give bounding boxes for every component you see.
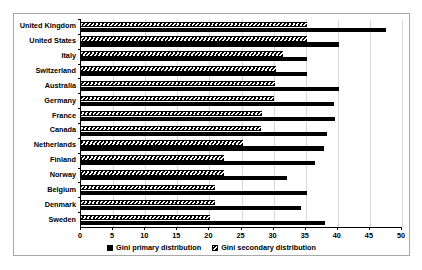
category-label: Belgium bbox=[0, 186, 81, 194]
legend-swatch-secondary-icon bbox=[212, 245, 218, 251]
bar-primary bbox=[81, 161, 315, 165]
legend-swatch-primary-icon bbox=[107, 245, 113, 251]
x-axis-tick bbox=[305, 227, 306, 230]
bar-secondary bbox=[81, 200, 215, 205]
y-axis-tick bbox=[78, 182, 81, 183]
x-axis-tick bbox=[401, 227, 402, 230]
x-axis-tick bbox=[241, 227, 242, 230]
bar-primary bbox=[81, 57, 307, 61]
x-axis-tick bbox=[208, 227, 209, 230]
x-axis-label: 5 bbox=[110, 231, 114, 240]
gridline bbox=[402, 19, 403, 227]
plot-area: United KingdomUnited StatesItalySwitzerl… bbox=[80, 19, 402, 228]
x-axis-label: 15 bbox=[172, 231, 180, 240]
category-label: Netherlands bbox=[0, 141, 81, 149]
bar-primary bbox=[81, 191, 307, 195]
chart-legend: Gini primary distribution Gini secondary… bbox=[14, 243, 409, 252]
y-axis-tick bbox=[78, 19, 81, 20]
bar-secondary bbox=[81, 155, 224, 160]
x-axis-tick bbox=[176, 227, 177, 230]
bar-row: Belgium bbox=[81, 182, 402, 197]
category-label: Switzerland bbox=[0, 67, 81, 75]
x-axis-label: 30 bbox=[269, 231, 277, 240]
x-axis-label: 35 bbox=[301, 231, 309, 240]
bar-primary bbox=[81, 146, 324, 150]
bar-row: United States bbox=[81, 34, 402, 49]
y-axis-tick bbox=[78, 64, 81, 65]
y-axis-tick bbox=[78, 123, 81, 124]
y-axis-tick bbox=[78, 34, 81, 35]
bar-primary bbox=[81, 176, 287, 180]
bar-row: Germany bbox=[81, 93, 402, 108]
y-axis-tick bbox=[78, 168, 81, 169]
bar-row: Finland bbox=[81, 153, 402, 168]
x-axis-tick bbox=[337, 227, 338, 230]
bar-secondary bbox=[81, 215, 210, 220]
bar-primary bbox=[81, 102, 334, 106]
x-axis-label: 10 bbox=[140, 231, 148, 240]
bar-primary bbox=[81, 87, 339, 91]
x-axis-tick bbox=[273, 227, 274, 230]
legend-label-primary: Gini primary distribution bbox=[116, 243, 201, 252]
x-axis-label: 0 bbox=[78, 231, 82, 240]
x-axis-tick bbox=[369, 227, 370, 230]
bar-secondary bbox=[81, 51, 283, 56]
bar-row: Australia bbox=[81, 78, 402, 93]
x-axis-label: 40 bbox=[333, 231, 341, 240]
bar-row: Switzerland bbox=[81, 64, 402, 79]
bar-secondary bbox=[81, 81, 275, 86]
bar-secondary bbox=[81, 111, 262, 116]
bar-secondary bbox=[81, 22, 307, 27]
y-axis-tick bbox=[78, 212, 81, 213]
legend-label-secondary: Gini secondary distribution bbox=[221, 243, 316, 252]
category-label: Denmark bbox=[0, 201, 81, 209]
bar-secondary bbox=[81, 140, 243, 145]
bar-secondary bbox=[81, 36, 307, 41]
bar-row: Norway bbox=[81, 168, 402, 183]
category-label: France bbox=[0, 112, 81, 120]
y-axis-tick bbox=[78, 78, 81, 79]
bar-row: Italy bbox=[81, 49, 402, 64]
y-axis-tick bbox=[78, 108, 81, 109]
bar-secondary bbox=[81, 185, 215, 190]
category-label: Norway bbox=[0, 171, 81, 179]
bar-row: Canada bbox=[81, 123, 402, 138]
category-label: Italy bbox=[0, 52, 81, 60]
bar-primary bbox=[81, 28, 386, 32]
bar-primary bbox=[81, 42, 339, 46]
bar-row: Sweden bbox=[81, 212, 402, 227]
category-label: Canada bbox=[0, 126, 81, 134]
bar-primary bbox=[81, 206, 301, 210]
bar-primary bbox=[81, 221, 325, 225]
category-label: Sweden bbox=[0, 216, 81, 224]
x-axis-tick bbox=[112, 227, 113, 230]
bar-primary bbox=[81, 72, 307, 76]
x-axis-label: 50 bbox=[397, 231, 405, 240]
x-axis-label: 20 bbox=[204, 231, 212, 240]
bar-row: United Kingdom bbox=[81, 19, 402, 34]
x-axis-label: 45 bbox=[365, 231, 373, 240]
bar-primary bbox=[81, 132, 327, 136]
x-axis: 05101520253035404550 bbox=[80, 227, 401, 243]
x-axis-label: 25 bbox=[236, 231, 244, 240]
legend-item-secondary: Gini secondary distribution bbox=[212, 243, 316, 252]
y-axis-tick bbox=[78, 49, 81, 50]
bar-secondary bbox=[81, 66, 276, 71]
y-axis-tick bbox=[78, 197, 81, 198]
category-label: Finland bbox=[0, 156, 81, 164]
category-label: Germany bbox=[0, 97, 81, 105]
category-label: Australia bbox=[0, 82, 81, 90]
plot-inner: United KingdomUnited StatesItalySwitzerl… bbox=[81, 19, 402, 227]
bar-row: Netherlands bbox=[81, 138, 402, 153]
chart-container: United KingdomUnited StatesItalySwitzerl… bbox=[13, 13, 410, 256]
bar-row: Denmark bbox=[81, 197, 402, 212]
y-axis-tick bbox=[78, 93, 81, 94]
y-axis-tick bbox=[78, 138, 81, 139]
x-axis-tick bbox=[144, 227, 145, 230]
x-axis-tick bbox=[80, 227, 81, 230]
bar-primary bbox=[81, 117, 335, 121]
bar-secondary bbox=[81, 96, 274, 101]
y-axis-tick bbox=[78, 153, 81, 154]
category-label: United Kingdom bbox=[0, 22, 81, 30]
bar-secondary bbox=[81, 126, 261, 131]
